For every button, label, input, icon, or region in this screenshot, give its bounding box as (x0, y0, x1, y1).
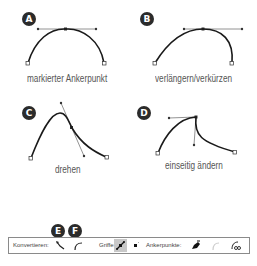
control-toolbar: Konvertieren: Griffe: Ankerpunkte: (8, 237, 250, 254)
show-handles-multiple-icon (115, 240, 126, 251)
convert-label: Konvertieren: (13, 242, 49, 248)
handles-label: Griffe: (99, 242, 115, 248)
connect-endpoints-icon (210, 240, 221, 251)
hide-handles-multiple-icon (130, 240, 141, 251)
remove-anchor-button[interactable] (189, 239, 202, 252)
show-handles-button[interactable] (114, 239, 127, 252)
connect-endpoints-button[interactable] (209, 239, 222, 252)
caption-d: einseitig ändern (165, 160, 223, 171)
hide-handles-button[interactable] (129, 239, 142, 252)
anchors-label: Ankerpunkte: (146, 242, 181, 248)
badge-f: F (68, 224, 82, 238)
curve-d-illustration (0, 0, 257, 266)
convert-to-corner-button[interactable] (54, 239, 67, 252)
convert-to-smooth-icon (72, 240, 83, 251)
cut-path-icon (230, 240, 241, 251)
convert-to-smooth-button[interactable] (71, 239, 84, 252)
badge-e: E (51, 224, 65, 238)
cut-path-button[interactable] (229, 239, 242, 252)
remove-anchor-icon (190, 240, 201, 251)
convert-to-corner-icon (55, 240, 66, 251)
